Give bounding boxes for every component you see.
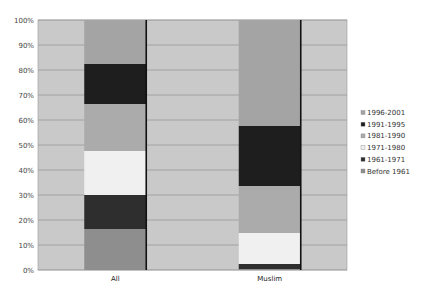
y-tick-label: 20% [18, 217, 34, 225]
legend-label: 1971-1980 [367, 144, 405, 152]
bar-segment-all-1991-1995 [84, 64, 146, 104]
y-axis-ticks: 0%10%20%30%40%50%60%70%80%90%100% [14, 17, 34, 275]
legend-swatch [361, 157, 365, 161]
y-tick-label: 0% [23, 267, 34, 275]
bar-segment-muslim-1961-1971 [239, 264, 301, 269]
legend-label: 1981-1990 [367, 132, 405, 140]
legend-swatch [361, 122, 365, 126]
bar-segment-muslim-1996-2001 [239, 20, 301, 126]
bar-segment-muslim-1981-1990 [239, 186, 301, 233]
category-labels: AllMuslim [111, 275, 282, 283]
legend-label: Before 1961 [367, 168, 410, 176]
y-tick-label: 100% [14, 17, 34, 25]
y-tick-label: 80% [18, 67, 34, 75]
stacked-bar-chart: 0%10%20%30%40%50%60%70%80%90%100% AllMus… [0, 0, 424, 298]
legend-label: 1961-1971 [367, 156, 405, 164]
y-tick-label: 40% [18, 167, 34, 175]
category-label: All [111, 275, 120, 283]
legend-swatch [361, 146, 365, 150]
y-tick-label: 50% [18, 142, 34, 150]
legend-swatch [361, 111, 365, 115]
y-tick-label: 30% [18, 192, 34, 200]
y-tick-label: 10% [18, 242, 34, 250]
bar-segment-all-1971-1980 [84, 151, 146, 195]
legend-label: 1991-1995 [367, 121, 405, 129]
legend-swatch [361, 134, 365, 138]
legend-swatch [361, 169, 365, 173]
legend-label: 1996-2001 [367, 109, 405, 117]
bar-segment-muslim-1971-1980 [239, 233, 301, 264]
bar-segment-all-1996-2001 [84, 20, 146, 64]
bar-segment-all-1981-1990 [84, 104, 146, 151]
bar-segment-all-before-1961 [84, 229, 146, 270]
category-label: Muslim [257, 275, 282, 283]
y-tick-label: 70% [18, 92, 34, 100]
bar-segment-all-1961-1971 [84, 195, 146, 229]
y-tick-label: 60% [18, 117, 34, 125]
bar-segment-muslim-1991-1995 [239, 126, 301, 186]
legend: 1996-20011991-19951981-19901971-19801961… [361, 109, 410, 176]
y-tick-label: 90% [18, 42, 34, 50]
bar-segment-muslim-before-1961 [239, 269, 301, 270]
